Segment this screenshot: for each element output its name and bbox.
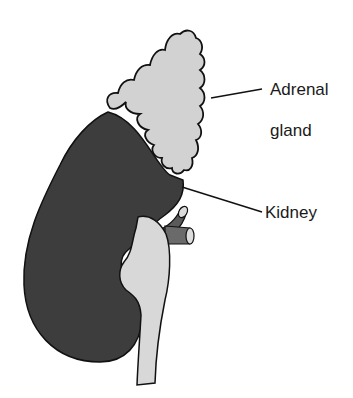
adrenal-gland-label-line2: gland	[270, 121, 312, 141]
adrenal-gland-label-line1: Adrenal	[270, 80, 329, 100]
kidney-leader-line	[182, 187, 262, 212]
adrenal-leader-line	[211, 89, 262, 98]
kidney-label: Kidney	[265, 203, 317, 223]
kidney-adrenal-diagram	[0, 0, 353, 398]
vessel-opening-lower	[186, 228, 194, 244]
